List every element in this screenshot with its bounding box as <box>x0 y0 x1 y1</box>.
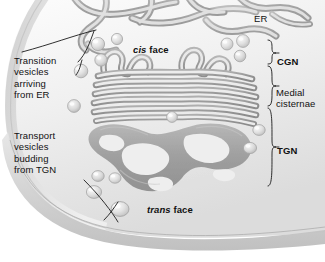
label-cgn: CGN <box>277 56 298 67</box>
vesicle <box>74 64 88 78</box>
vesicle <box>221 38 233 50</box>
label-cis-face: cis face <box>133 44 169 55</box>
vesicle <box>237 35 250 48</box>
vesicle <box>92 171 104 182</box>
label-er: ER <box>254 13 267 24</box>
vesicle <box>95 54 107 66</box>
label-trans-face: trans face <box>147 204 193 215</box>
label-transport-vesicles: Transport vesicles budding from TGN <box>14 130 56 176</box>
label-transition-vesicles: Transition vesicles arriving from ER <box>14 55 56 101</box>
vesicle <box>111 202 129 217</box>
vesicle <box>253 125 265 136</box>
label-medial-cisternae: Medial cisternae <box>276 87 315 110</box>
vesicle <box>68 100 81 113</box>
label-trans-italic: trans <box>147 204 171 215</box>
vesicle <box>91 37 104 50</box>
vesicle <box>243 142 256 153</box>
vesicle <box>111 33 122 44</box>
label-cis-italic: cis <box>133 44 147 55</box>
label-cis-rest: face <box>147 44 169 55</box>
label-tgn: TGN <box>277 145 297 156</box>
label-trans-rest: face <box>171 204 193 215</box>
vesicle <box>234 50 246 62</box>
golgi-apparatus-figure: Transition vesicles arriving from ER Tra… <box>0 0 325 262</box>
vesicle <box>109 173 121 183</box>
vesicle <box>167 112 178 123</box>
